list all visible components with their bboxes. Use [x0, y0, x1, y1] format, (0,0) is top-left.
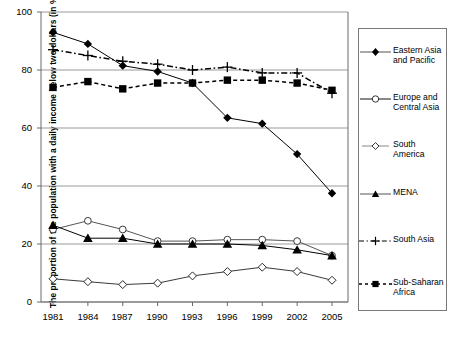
- data-point: [224, 76, 231, 83]
- legend-label-line2: Africa: [393, 287, 415, 297]
- data-point: [48, 45, 58, 55]
- legend-item-south-america[interactable]: South America: [359, 139, 448, 160]
- data-point: [154, 79, 161, 86]
- legend-item-south-asia[interactable]: South Asia: [359, 234, 448, 247]
- series-south-america: [49, 263, 336, 288]
- data-point: [189, 79, 196, 86]
- data-point: [153, 59, 163, 69]
- data-point: [154, 279, 162, 287]
- data-point: [84, 78, 91, 85]
- legend-marker-filled-triangle-icon: [359, 188, 392, 200]
- data-point: [83, 51, 93, 61]
- data-point: [328, 87, 335, 94]
- data-point: [84, 217, 91, 224]
- data-point: [293, 79, 300, 86]
- data-point: [119, 85, 126, 92]
- legend-label-line1: MENA: [393, 187, 418, 197]
- legend-label-line1: South: [393, 139, 415, 149]
- data-point: [258, 263, 266, 271]
- legend-marker-open-circle-icon: [359, 93, 392, 105]
- data-point: [49, 275, 57, 283]
- chart-figure: The proportion of the population with a …: [0, 0, 451, 353]
- data-point: [223, 268, 231, 276]
- data-point: [292, 68, 302, 78]
- data-point: [293, 268, 301, 276]
- legend-label-line2: America: [393, 149, 425, 159]
- legend-label-line1: South Asia: [393, 234, 434, 244]
- legend-label-line1: Europe and: [393, 92, 437, 102]
- data-point: [118, 56, 128, 66]
- data-point: [189, 272, 197, 280]
- legend-item-europe-and-central-asia[interactable]: Europe and Central Asia: [359, 92, 448, 113]
- legend-label-line2: and Pacific: [393, 55, 435, 65]
- legend-item-eastern-asia-and-pacific[interactable]: Eastern Asia and Pacific: [359, 45, 448, 66]
- data-point: [84, 278, 92, 286]
- data-point: [259, 76, 266, 83]
- data-point: [49, 28, 57, 36]
- legend-marker-plus-icon: [359, 235, 392, 247]
- legend-marker-filled-square-icon: [359, 278, 392, 290]
- legend-item-mena[interactable]: MENA: [359, 187, 448, 200]
- data-point: [257, 68, 267, 78]
- series-south-asia: [48, 45, 337, 98]
- legend-marker-open-diamond-icon: [359, 140, 392, 152]
- legend-label-line2: Central Asia: [393, 102, 439, 112]
- data-point: [119, 281, 127, 289]
- legend-label-line1: Sub-Saharan: [393, 277, 444, 287]
- legend-item-sub-saharan-africa[interactable]: Sub-Saharan Africa: [359, 277, 448, 298]
- data-point: [294, 238, 301, 245]
- chart-legend: Eastern Asia and Pacific Europe and Cent…: [358, 28, 447, 311]
- data-point: [222, 62, 232, 72]
- data-point: [49, 84, 56, 91]
- data-point: [328, 276, 336, 284]
- data-point: [119, 226, 126, 233]
- legend-marker-filled-diamond-icon: [359, 46, 392, 58]
- legend-label-line1: Eastern Asia: [393, 45, 441, 55]
- series-eastern-asia-and-pacific: [49, 28, 336, 197]
- data-point: [48, 221, 58, 229]
- data-point: [84, 40, 92, 48]
- data-point: [188, 65, 198, 75]
